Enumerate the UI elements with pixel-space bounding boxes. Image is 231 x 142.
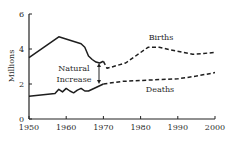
- x-tick-label: 1950: [19, 123, 39, 132]
- axes: [29, 14, 215, 119]
- x-tick-label: 1980: [130, 123, 150, 132]
- population-chart: 0246 195019601970198019902000 Millions N…: [0, 0, 231, 142]
- y-axis-label: Millions: [7, 50, 16, 83]
- y-ticks: 0246: [19, 10, 32, 124]
- natural-label-line2: Increase: [57, 75, 92, 84]
- x-tick-label: 1960: [56, 123, 76, 132]
- x-tick-label: 1990: [168, 123, 188, 132]
- deaths-label: Deaths: [146, 85, 174, 94]
- natural-label-line1: Natural: [58, 64, 90, 73]
- births-projected-line: [103, 47, 215, 68]
- y-tick-label: 4: [19, 45, 24, 54]
- births-historical-line: [29, 37, 103, 63]
- x-tick-label: 2000: [205, 123, 225, 132]
- y-tick-label: 2: [19, 80, 24, 89]
- y-tick-label: 6: [19, 10, 24, 19]
- births-label: Births: [149, 33, 174, 42]
- deaths-historical-line: [29, 84, 103, 96]
- series-lines: [29, 37, 215, 97]
- deaths-projected-line: [103, 73, 215, 84]
- x-tick-label: 1970: [93, 123, 113, 132]
- natural-increase-arrow: [97, 63, 101, 84]
